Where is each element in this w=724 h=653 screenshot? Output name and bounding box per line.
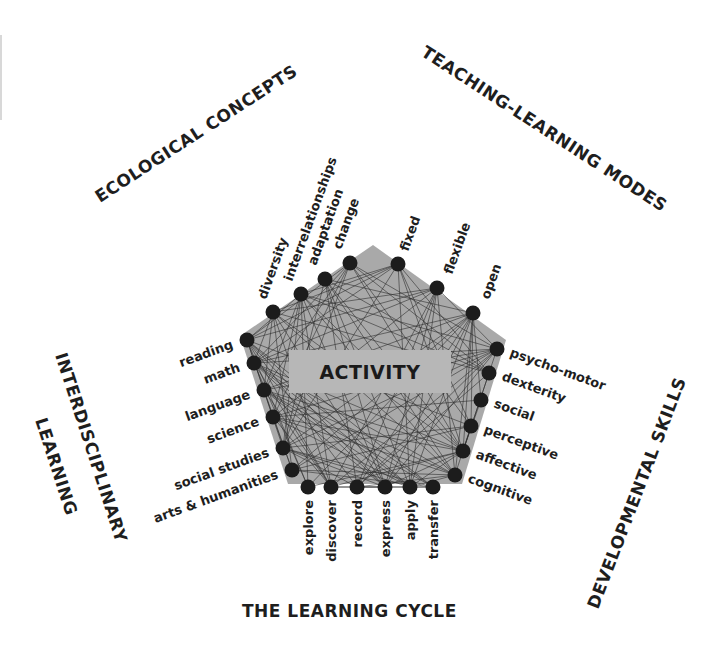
node-label-apply: apply <box>403 499 418 540</box>
node-dot-fixed <box>391 257 406 272</box>
node-dot-social-studies <box>276 441 291 456</box>
node-label-flexible: flexible <box>441 220 474 276</box>
title-teaching-learning-modes: TEACHING-LEARNING MODES <box>418 42 671 216</box>
title-ecological-concepts: ECOLOGICAL CONCEPTS <box>91 61 301 207</box>
node-dot-apply <box>403 480 418 495</box>
node-dot-affective <box>456 444 471 459</box>
activity-pentagon-diagram: ECOLOGICAL CONCEPTS TEACHING-LEARNING MO… <box>0 0 724 653</box>
node-dot-cognitive <box>448 468 463 483</box>
title-developmental-skills: DEVELOPMENTAL SKILLS <box>583 374 690 611</box>
node-label-explore: explore <box>301 500 316 555</box>
title-learning: LEARNING <box>31 415 81 518</box>
node-dot-open <box>466 306 481 321</box>
node-label-express: express <box>378 500 393 557</box>
node-dot-adaptation <box>318 272 333 287</box>
node-dot-explore <box>301 480 316 495</box>
node-dot-record <box>350 480 365 495</box>
node-dot-dexterity <box>482 366 497 381</box>
node-dot-interrelationships <box>294 287 309 302</box>
title-learning-cycle: THE LEARNING CYCLE <box>242 601 457 621</box>
node-label-science: science <box>205 414 262 447</box>
node-label-transfer: transfer <box>426 499 441 559</box>
node-label-social: social <box>492 396 537 424</box>
node-dot-social <box>474 393 489 408</box>
node-label-math: math <box>201 360 242 387</box>
activity-center: ACTIVITY <box>289 350 451 393</box>
node-label-fixed: fixed <box>397 214 423 253</box>
node-dot-flexible <box>430 281 445 296</box>
node-dot-discover <box>324 480 339 495</box>
activity-label: ACTIVITY <box>319 361 420 383</box>
node-dot-change <box>343 256 358 271</box>
node-dot-arts-humanities <box>285 463 300 478</box>
node-dot-science <box>266 410 281 425</box>
node-dot-language <box>257 383 272 398</box>
node-dot-reading <box>240 333 255 348</box>
node-dot-perceptive <box>464 419 479 434</box>
node-dot-psycho-motor <box>490 342 505 357</box>
node-dot-diversity <box>266 305 281 320</box>
node-label-discover: discover <box>324 499 339 561</box>
node-label-record: record <box>350 500 365 548</box>
node-label-open: open <box>478 262 505 301</box>
node-dot-math <box>247 356 262 371</box>
node-dot-express <box>378 480 393 495</box>
node-dot-transfer <box>426 480 441 495</box>
